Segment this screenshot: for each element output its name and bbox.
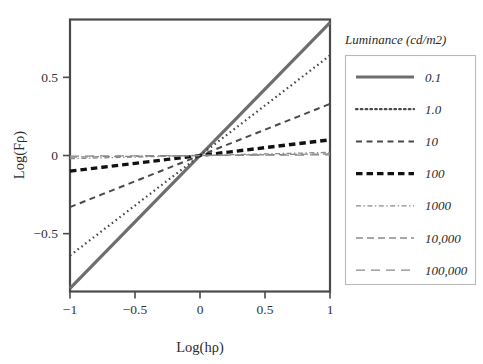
- chart-figure: −1−0.500.51 0.50−0.5 Log(hρ) Log(Fρ) Lum…: [0, 0, 483, 364]
- x-tick-label: 0: [197, 302, 204, 317]
- y-axis-tick-labels: 0.50−0.5: [34, 70, 59, 241]
- chart-svg: −1−0.500.51 0.50−0.5 Log(hρ) Log(Fρ) Lum…: [0, 0, 483, 364]
- legend-label-100: 100: [425, 166, 445, 181]
- legend-label-100000: 100,000: [425, 263, 468, 278]
- legend-label-10000: 10,000: [425, 231, 461, 246]
- y-tick-label: −0.5: [34, 226, 59, 241]
- legend-box: [346, 56, 476, 285]
- curve-group: [70, 23, 330, 289]
- x-tick-label: −0.5: [123, 302, 148, 317]
- legend-title: Luminance (cd/m2): [344, 32, 446, 47]
- x-tick-label: −1: [63, 302, 77, 317]
- x-axis-tick-labels: −1−0.500.51: [63, 302, 334, 317]
- legend-label-10: 1.0: [425, 102, 442, 117]
- y-axis-title: Log(Fρ): [11, 131, 28, 179]
- legend-label-01: 0.1: [425, 70, 441, 85]
- x-tick-label: 0.5: [257, 302, 274, 317]
- legend-label-1000: 1000: [425, 198, 452, 213]
- x-tick-label: 1: [327, 302, 334, 317]
- y-tick-label: 0.5: [41, 70, 58, 85]
- legend-label-10: 10: [425, 134, 439, 149]
- y-tick-label: 0: [51, 148, 58, 163]
- x-axis-title: Log(hρ): [176, 339, 224, 356]
